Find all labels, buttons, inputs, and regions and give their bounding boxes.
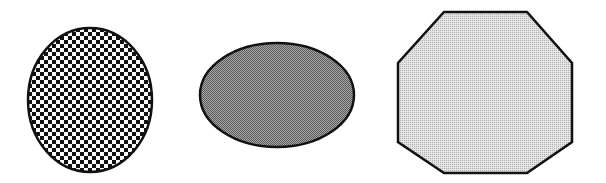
checkered-circle (28, 28, 152, 172)
light-gray-octagon (398, 12, 572, 173)
gray-ellipse (200, 43, 354, 147)
shapes-diagram (0, 0, 606, 183)
